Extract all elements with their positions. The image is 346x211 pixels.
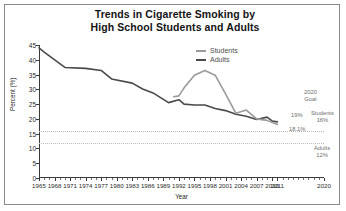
x-tick-minor <box>205 178 206 180</box>
plot-area: 051015202530354045 196519681971197419771… <box>39 45 324 178</box>
y-tick-label: 10 <box>29 145 36 152</box>
x-tick-minor <box>122 178 123 180</box>
chart-title-line-1: Trends in Cigarette Smoking by <box>30 8 320 21</box>
x-tick-label: 2004 <box>234 182 248 189</box>
x-tick-mark <box>272 178 273 181</box>
y-axis-title: Percent (%) <box>9 78 16 111</box>
adults-endpoint-label: 18.1% <box>289 126 305 133</box>
x-tick-label: 1974 <box>79 182 93 189</box>
x-tick-minor <box>91 178 92 180</box>
x-tick-minor <box>283 178 284 180</box>
x-tick-label: 1998 <box>203 182 217 189</box>
x-tick-minor <box>153 178 154 180</box>
goal-header-annotation: 2020 Goal <box>304 89 317 103</box>
x-tick-minor <box>112 178 113 180</box>
x-tick-minor <box>303 178 304 180</box>
y-tick-label: 35 <box>29 71 36 78</box>
x-tick-label: 1980 <box>110 182 124 189</box>
x-tick-mark <box>257 178 258 181</box>
x-tick-minor <box>106 178 107 180</box>
x-tick-minor <box>158 178 159 180</box>
x-tick-minor <box>174 178 175 180</box>
x-tick-label: 2001 <box>219 182 233 189</box>
x-tick-minor <box>127 178 128 180</box>
y-tick-label: 20 <box>29 115 36 122</box>
x-tick-label: 1968 <box>48 182 62 189</box>
x-tick-label: 1995 <box>188 182 202 189</box>
x-tick-mark <box>148 178 149 181</box>
adults-goal-value: 12% <box>314 152 330 159</box>
goal-header-year: 2020 <box>304 89 317 96</box>
x-tick-minor <box>267 178 268 180</box>
adults-goal-name: Adults <box>314 145 330 152</box>
y-tick-label: 30 <box>29 86 36 93</box>
x-tick-label: 2020 <box>317 182 331 189</box>
x-tick-mark <box>277 178 278 181</box>
x-tick-minor <box>246 178 247 180</box>
x-tick-mark <box>241 178 242 181</box>
x-tick-minor <box>44 178 45 180</box>
x-tick-mark <box>324 178 325 181</box>
x-tick-minor <box>143 178 144 180</box>
x-tick-minor <box>288 178 289 180</box>
x-tick-minor <box>262 178 263 180</box>
x-tick-mark <box>226 178 227 181</box>
x-tick-minor <box>298 178 299 180</box>
series-lines <box>39 45 324 178</box>
x-tick-label: 1992 <box>172 182 186 189</box>
x-tick-mark <box>132 178 133 181</box>
series-line-students <box>174 70 278 124</box>
x-tick-label: 1977 <box>94 182 108 189</box>
x-tick-mark <box>179 178 180 181</box>
students-endpoint-label: 19% <box>291 112 303 119</box>
x-tick-minor <box>308 178 309 180</box>
x-tick-mark <box>86 178 87 181</box>
x-tick-minor <box>220 178 221 180</box>
x-tick-minor <box>251 178 252 180</box>
goal-header-word: Goal <box>304 96 317 103</box>
x-tick-label: 1971 <box>63 182 77 189</box>
x-tick-minor <box>137 178 138 180</box>
x-tick-minor <box>75 178 76 180</box>
x-tick-mark <box>55 178 56 181</box>
x-tick-minor <box>96 178 97 180</box>
y-tick-label: 15 <box>29 130 36 137</box>
x-tick-label: 1983 <box>125 182 139 189</box>
y-tick-label: 25 <box>29 101 36 108</box>
x-tick-label: 2007 <box>250 182 264 189</box>
x-tick-minor <box>184 178 185 180</box>
x-tick-minor <box>236 178 237 180</box>
x-axis-title: Year <box>39 193 324 200</box>
x-tick-mark <box>101 178 102 181</box>
chart-figure: Trends in Cigarette Smoking by High Scho… <box>0 0 346 211</box>
x-tick-minor <box>231 178 232 180</box>
x-tick-minor <box>189 178 190 180</box>
adults-goal-annotation: Adults 12% <box>314 145 330 159</box>
x-tick-label: 1986 <box>141 182 155 189</box>
x-tick-mark <box>210 178 211 181</box>
students-goal-annotation: Students 16% <box>311 110 334 124</box>
chart-title: Trends in Cigarette Smoking by High Scho… <box>30 8 320 33</box>
y-tick-label: 40 <box>29 56 36 63</box>
x-tick-minor <box>200 178 201 180</box>
x-tick-mark <box>39 178 40 181</box>
y-tick-label: 0 <box>32 175 36 182</box>
x-tick-label: 2011 <box>271 182 284 189</box>
x-tick-minor <box>49 178 50 180</box>
x-tick-minor <box>215 178 216 180</box>
x-tick-minor <box>314 178 315 180</box>
x-tick-mark <box>194 178 195 181</box>
x-tick-mark <box>70 178 71 181</box>
x-tick-minor <box>60 178 61 180</box>
x-tick-minor <box>319 178 320 180</box>
x-tick-minor <box>80 178 81 180</box>
x-tick-minor <box>65 178 66 180</box>
chart-title-line-2: High School Students and Adults <box>30 21 320 34</box>
x-tick-mark <box>117 178 118 181</box>
students-goal-name: Students <box>311 110 334 117</box>
x-tick-minor <box>169 178 170 180</box>
x-tick-label: 1965 <box>32 182 46 189</box>
x-tick-label: 1989 <box>156 182 170 189</box>
students-goal-value: 16% <box>311 117 334 124</box>
x-tick-minor <box>293 178 294 180</box>
